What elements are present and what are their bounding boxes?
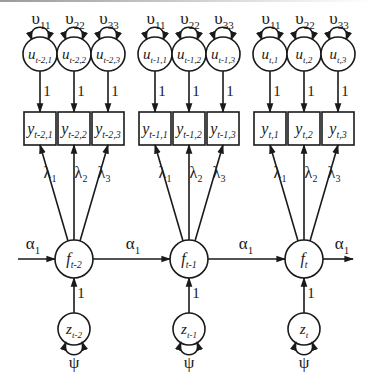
autoregressive-label: α1 xyxy=(26,234,40,256)
fixed-path-label: 1 xyxy=(226,83,234,99)
uniqueness-variance-label: υ33 xyxy=(99,9,119,31)
fixed-path-label: 1 xyxy=(307,83,315,99)
uniqueness-variance-label: υ33 xyxy=(214,9,234,31)
loading-label: λ2 xyxy=(305,164,318,184)
loading-label: λ3 xyxy=(213,164,226,184)
uniqueness-variance-label: υ33 xyxy=(329,9,349,31)
loading-path xyxy=(155,145,183,241)
loading-path xyxy=(40,145,68,241)
fixed-path-label: 1 xyxy=(307,285,315,301)
loading-label: λ2 xyxy=(190,164,203,184)
uniqueness-variance-label: υ11 xyxy=(261,9,280,31)
loading-label: λ3 xyxy=(98,164,111,184)
loading-path xyxy=(80,145,108,241)
fixed-path-label: 1 xyxy=(192,285,200,301)
time-slice-t xyxy=(253,27,355,355)
fixed-path-label: 1 xyxy=(77,285,85,301)
time-slice-t-2 xyxy=(23,27,125,355)
disturbance-node xyxy=(173,313,205,345)
uniqueness-node xyxy=(287,37,321,71)
autoregressive-label: α1 xyxy=(126,234,140,256)
uniqueness-node xyxy=(321,37,355,71)
fixed-path-label: 1 xyxy=(341,83,349,99)
uniqueness-variance-label: υ11 xyxy=(31,9,50,31)
uniqueness-variance-label: υ22 xyxy=(295,9,314,31)
fixed-path-label: 1 xyxy=(192,83,200,99)
time-slice-t-1 xyxy=(138,27,240,355)
uniqueness-variance-label: υ22 xyxy=(65,9,84,31)
uniqueness-variance-label: υ11 xyxy=(146,9,165,31)
fixed-path-label: 1 xyxy=(273,83,281,99)
loading-label: λ3 xyxy=(328,164,341,184)
disturbance-variance-label: ψ xyxy=(299,353,310,372)
disturbance-node xyxy=(58,313,90,345)
loading-path xyxy=(270,145,298,241)
disturbance-variance-label: ψ xyxy=(69,353,80,372)
fixed-path-label: 1 xyxy=(158,83,166,99)
uniqueness-variance-label: υ22 xyxy=(180,9,199,31)
autoregressive-label: α1 xyxy=(335,234,349,256)
fixed-path-label: 1 xyxy=(111,83,119,99)
fixed-path-label: 1 xyxy=(77,83,85,99)
fixed-path-label: 1 xyxy=(43,83,51,99)
disturbance-variance-label: ψ xyxy=(184,353,195,372)
autoregressive-label: α1 xyxy=(239,234,253,256)
loading-path xyxy=(310,145,338,241)
loading-path xyxy=(195,145,223,241)
loading-label: λ2 xyxy=(75,164,88,184)
path-diagram: υ11ut-2,11yt-2,1λ1υ22ut-2,21yt-2,2λ2υ33u… xyxy=(0,0,374,382)
uniqueness-node xyxy=(253,37,287,71)
